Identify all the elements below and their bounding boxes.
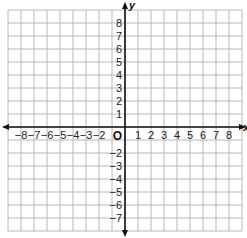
x-tick-label: −5 — [54, 129, 67, 141]
x-tick-label: 6 — [200, 129, 206, 141]
x-tick-label: 4 — [174, 129, 180, 141]
x-tick-label: 8 — [226, 129, 232, 141]
y-axis-down-arrow-icon — [122, 230, 128, 237]
x-tick-label: −2 — [93, 129, 106, 141]
x-tick-label: 2 — [148, 129, 154, 141]
y-tick-label: −3 — [109, 160, 122, 172]
x-tick-label: 1 — [135, 129, 141, 141]
x-tick-label: 7 — [213, 129, 219, 141]
y-tick-label: −2 — [109, 147, 122, 159]
y-axis-up-arrow-icon — [122, 2, 128, 9]
y-tick-label: −6 — [109, 199, 122, 211]
y-tick-label: 5 — [116, 56, 122, 68]
y-tick-label: 2 — [116, 95, 122, 107]
y-tick-label: −7 — [109, 212, 122, 224]
y-tick-label: −5 — [109, 186, 122, 198]
x-tick-label: −8 — [15, 129, 28, 141]
y-tick-label: 6 — [116, 43, 122, 55]
origin-label: O — [113, 129, 122, 143]
x-tick-label: −6 — [41, 129, 54, 141]
x-tick-label: 3 — [161, 129, 167, 141]
x-tick-label: −3 — [80, 129, 93, 141]
y-tick-label: −4 — [109, 173, 122, 185]
x-tick-label: −4 — [67, 129, 80, 141]
x-tick-label: 5 — [187, 129, 193, 141]
y-tick-label: 1 — [116, 108, 122, 120]
y-tick-label: 3 — [116, 82, 122, 94]
x-axis-left-arrow-icon — [2, 124, 9, 130]
x-tick-label: −7 — [28, 129, 41, 141]
y-tick-label: 4 — [116, 69, 122, 81]
x-axis-label: x — [242, 121, 247, 133]
y-axis-label: y — [128, 0, 136, 11]
y-tick-label: 7 — [116, 30, 122, 42]
y-tick-label: 8 — [116, 17, 122, 29]
coordinate-plane: −8−7−6−5−4−3−21234567887654321−2−3−4−5−6… — [0, 0, 247, 238]
